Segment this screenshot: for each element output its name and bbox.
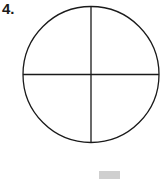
circle-divided-into-fourths <box>0 0 160 179</box>
answer-box[interactable] <box>99 171 120 179</box>
